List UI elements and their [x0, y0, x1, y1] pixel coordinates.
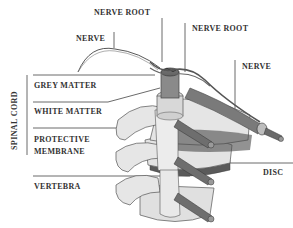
- label-protective-membrane-line2: MEMBRANE: [34, 147, 85, 156]
- label-protective-membrane-line1: PROTECTIVE: [34, 135, 90, 144]
- label-nerve-right: NERVE: [242, 62, 271, 71]
- label-nerve-left: NERVE: [76, 34, 105, 43]
- label-spinal-cord: SPINAL CORD: [10, 91, 19, 150]
- spinal-anatomy-diagram: NERVE ROOT NERVE ROOT NERVE NERVE SPINAL…: [0, 0, 293, 228]
- label-disc: DISC: [263, 168, 283, 177]
- label-nerve-root-top: NERVE ROOT: [94, 8, 150, 17]
- label-white-matter: WHITE MATTER: [34, 107, 102, 116]
- label-grey-matter: GREY MATTER: [34, 81, 97, 90]
- label-nerve-root-right: NERVE ROOT: [192, 24, 248, 33]
- label-vertebra: VERTEBRA: [34, 182, 81, 191]
